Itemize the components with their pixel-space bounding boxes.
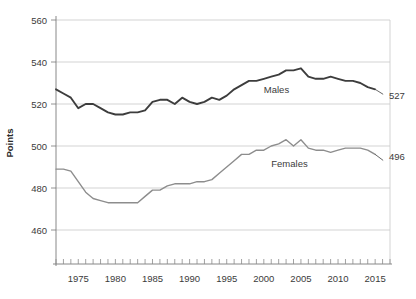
y-tick-label-540: 540 bbox=[31, 57, 47, 68]
y-axis-title: Points bbox=[4, 128, 15, 157]
x-tick-label: 1990 bbox=[179, 273, 200, 284]
y-axis-ticks bbox=[51, 20, 56, 230]
series-annotation-males: Males bbox=[264, 84, 290, 95]
chart-container: 560 540 520 500 480 460 Points 197519801… bbox=[0, 0, 416, 299]
series-line-males bbox=[56, 68, 375, 114]
x-axis-tick-labels: 197519801985199019952000200520102015 bbox=[68, 273, 386, 284]
series-line-females bbox=[56, 140, 375, 203]
series-annotation-females: Females bbox=[271, 158, 308, 169]
y-tick-label-480: 480 bbox=[31, 183, 47, 194]
x-tick-label: 2005 bbox=[290, 273, 311, 284]
x-tick-label: 2015 bbox=[365, 273, 386, 284]
x-tick-label: 2010 bbox=[327, 273, 348, 284]
line-chart-plot: 560 540 520 500 480 460 Points 197519801… bbox=[0, 0, 416, 299]
x-axis-minor-ticks bbox=[56, 259, 390, 264]
x-tick-label: 1985 bbox=[142, 273, 163, 284]
x-tick-label: 2000 bbox=[253, 273, 274, 284]
gridlines bbox=[56, 20, 390, 230]
y-tick-label-560: 560 bbox=[31, 15, 47, 26]
x-tick-label: 1975 bbox=[68, 273, 89, 284]
y-tick-label-520: 520 bbox=[31, 99, 47, 110]
end-leader-females bbox=[375, 154, 383, 160]
end-value-males: 527 bbox=[389, 90, 405, 101]
x-tick-label: 1980 bbox=[105, 273, 126, 284]
x-tick-label: 1995 bbox=[216, 273, 237, 284]
end-leader-males bbox=[375, 89, 383, 94]
y-tick-label-500: 500 bbox=[31, 141, 47, 152]
end-value-females: 496 bbox=[389, 151, 405, 162]
y-tick-label-460: 460 bbox=[31, 225, 47, 236]
